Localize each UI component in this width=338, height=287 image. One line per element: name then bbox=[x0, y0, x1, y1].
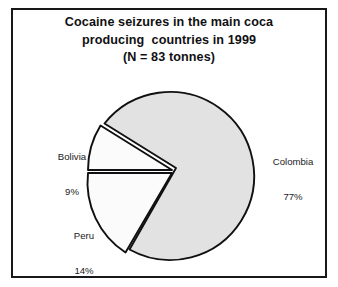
pie-label-bolivia-value: 9% bbox=[44, 186, 100, 198]
pie-label-peru-value: 14% bbox=[60, 265, 108, 277]
pie-label-colombia-value: 77% bbox=[262, 191, 324, 203]
pie-label-colombia-name: Colombia bbox=[262, 156, 324, 168]
pie-label-peru-name: Peru bbox=[60, 230, 108, 242]
chart-figure: Cocaine seizures in the main coca produc… bbox=[0, 0, 338, 287]
pie-label-peru: Peru 14% bbox=[60, 207, 108, 287]
pie-label-bolivia-name: Bolivia bbox=[44, 151, 100, 163]
pie-label-colombia: Colombia 77% bbox=[262, 133, 324, 226]
